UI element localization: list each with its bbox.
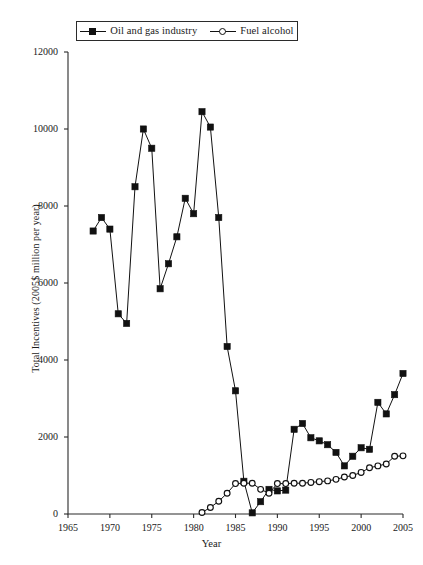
data-point-square — [375, 399, 381, 405]
data-point-square — [216, 214, 222, 220]
data-point-circle — [249, 480, 255, 486]
data-point-square — [199, 109, 205, 115]
data-point-square — [174, 234, 180, 240]
data-point-square — [316, 438, 322, 444]
data-point-square — [400, 370, 406, 376]
data-point-square — [124, 320, 130, 326]
data-point-circle — [258, 486, 264, 492]
data-point-circle — [207, 505, 213, 511]
series-fuel-alcohol — [199, 453, 406, 515]
data-point-square — [207, 124, 213, 130]
data-point-circle — [392, 453, 398, 459]
series-oil-and-gas-industry — [90, 109, 406, 516]
data-point-circle — [283, 481, 289, 487]
data-point-square — [325, 442, 331, 448]
data-point-square — [90, 228, 96, 234]
data-point-circle — [325, 478, 331, 484]
legend-label-oil-and-gas-industry: Oil and gas industry — [110, 26, 197, 37]
chart-figure: Oil and gas industry Fuel alcohol Total … — [0, 0, 423, 565]
axis-spines — [68, 52, 403, 514]
data-point-square — [132, 184, 138, 190]
data-point-circle — [341, 474, 347, 480]
data-point-square — [274, 488, 280, 494]
data-point-circle — [199, 510, 205, 516]
data-point-circle — [233, 481, 239, 487]
data-point-square — [383, 411, 389, 417]
data-point-circle — [358, 470, 364, 476]
series-line — [93, 112, 403, 513]
data-point-square — [366, 446, 372, 452]
data-point-square — [341, 463, 347, 469]
data-point-circle — [224, 490, 230, 496]
data-point-circle — [400, 453, 406, 459]
data-point-circle — [383, 461, 389, 467]
data-point-square — [140, 126, 146, 132]
data-point-square — [350, 453, 356, 459]
data-point-circle — [274, 481, 280, 487]
data-point-square — [182, 195, 188, 201]
data-point-circle — [316, 479, 322, 485]
open-circle-marker-icon — [210, 26, 236, 36]
data-point-circle — [300, 480, 306, 486]
data-point-circle — [291, 480, 297, 486]
legend-entry-oil-and-gas-industry: Oil and gas industry — [80, 26, 197, 37]
data-point-circle — [308, 480, 314, 486]
data-point-square — [308, 435, 314, 441]
data-point-circle — [266, 490, 272, 496]
data-point-square — [291, 426, 297, 432]
data-point-square — [224, 343, 230, 349]
data-point-square — [249, 510, 255, 516]
data-point-square — [232, 388, 238, 394]
data-point-square — [283, 487, 289, 493]
data-point-square — [149, 145, 155, 151]
chart-legend: Oil and gas industry Fuel alcohol — [76, 21, 298, 41]
data-point-square — [157, 286, 163, 292]
filled-square-marker-icon — [80, 26, 106, 36]
plot-area — [0, 0, 423, 565]
data-point-circle — [241, 480, 247, 486]
data-point-square — [165, 261, 171, 267]
data-point-circle — [333, 476, 339, 482]
data-point-square — [358, 445, 364, 451]
data-point-square — [333, 449, 339, 455]
data-point-circle — [350, 473, 356, 479]
data-point-square — [98, 214, 104, 220]
data-point-circle — [216, 498, 222, 504]
data-point-square — [299, 420, 305, 426]
data-point-square — [107, 226, 113, 232]
data-point-square — [258, 499, 264, 505]
data-point-square — [115, 311, 121, 317]
data-point-square — [392, 392, 398, 398]
legend-label-fuel-alcohol: Fuel alcohol — [240, 26, 293, 37]
data-point-square — [191, 211, 197, 217]
legend-entry-fuel-alcohol: Fuel alcohol — [210, 26, 293, 37]
data-point-circle — [367, 465, 373, 471]
data-point-circle — [375, 463, 381, 469]
